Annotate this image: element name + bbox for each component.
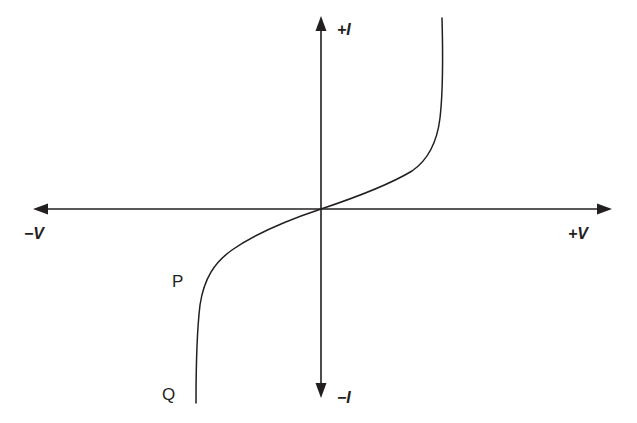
axis-label-negative-current: −I (337, 389, 351, 406)
axis-label-positive-current: +I (337, 21, 351, 38)
annotation-label-p: P (172, 272, 183, 291)
current-axis-down-arrow-icon (316, 383, 327, 398)
axis-label-positive-voltage: +V (568, 225, 589, 242)
annotation-label-q: Q (162, 385, 175, 404)
voltage-axis-right-arrow-icon (597, 204, 612, 215)
iv-characteristic-svg: +I +V −V −I P Q (0, 0, 637, 423)
iv-characteristic-figure: +I +V −V −I P Q (0, 0, 637, 423)
axis-label-negative-voltage: −V (24, 225, 45, 242)
voltage-axis-left-arrow-icon (33, 204, 48, 215)
iv-curve (196, 18, 443, 403)
current-axis-up-arrow-icon (316, 16, 327, 31)
